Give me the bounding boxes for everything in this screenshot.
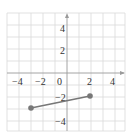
y-tick-label: −4: [55, 116, 66, 127]
x-tick-label: 0: [57, 76, 62, 87]
x-tick-label: 4: [110, 76, 115, 87]
y-axis-arrow-icon: [65, 13, 69, 18]
grid-lines: [7, 13, 125, 131]
x-axis-arrow-icon: [120, 71, 125, 75]
endpoint-dot: [28, 105, 34, 111]
y-tick-label: 4: [60, 23, 65, 34]
y-tick-label: 2: [60, 45, 65, 56]
x-tick-label: 2: [87, 76, 92, 87]
x-tick-label: −2: [35, 76, 46, 87]
endpoint-dot: [87, 93, 93, 99]
coordinate-plane: −4 −2 0 2 4 4 2 −2 −4: [0, 0, 131, 137]
x-tick-label: −4: [12, 76, 23, 87]
